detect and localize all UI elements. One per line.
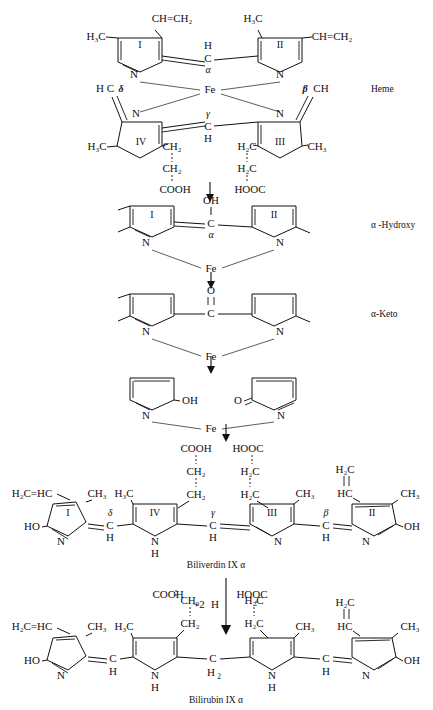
biliverdin-propionate-left-ch2-b: CH₂ — [186, 488, 205, 500]
heme-iron-center: Fe — [205, 83, 216, 95]
heme-delta-label: δ — [118, 83, 123, 94]
heme-structure: I N H₃C CH=CH₂ H C α II N H₃C CH=CH₂ Fe … — [0, 0, 433, 195]
heme-ring-3-chain-h2c-a: H₂C — [237, 140, 256, 152]
bilirubin-caption: Bilirubin IX α — [189, 695, 243, 705]
bilirubin-central-bridge-h: H — [207, 666, 215, 678]
stage-label-heme: Heme — [371, 84, 394, 94]
heme-alpha-bridge-label: α — [205, 64, 211, 75]
biliverdin-propionate-right-h2c-b: H₂C — [240, 488, 259, 500]
biliverdin-gamma-carbon: C — [209, 519, 216, 531]
heme-gamma-hydrogen: H — [204, 132, 212, 144]
keto-ring-1-nitrogen: N — [142, 325, 150, 337]
biliverdin-methyl-2: H₃C — [114, 487, 133, 499]
biliverdin-gamma-label: γ — [211, 507, 216, 518]
stage-label-alpha-keto: α-Keto — [371, 309, 398, 319]
keto-bridge-carbon: C — [207, 307, 214, 319]
biliverdin-ring-1: I N — [47, 502, 86, 547]
biliverdin-caption-wrap: Biliverdin IX α — [0, 556, 433, 572]
biliverdin-right-vinyl-h2c: H₂C — [335, 463, 354, 475]
bilirubin-ring-4-nitrogen: N — [362, 669, 370, 681]
bilirubin-methyl-1: CH₃ — [87, 620, 106, 632]
biliverdin-propionate-left-ch2-a: CH₂ — [186, 465, 205, 477]
biliverdin-ring-1-numeral: I — [66, 507, 69, 518]
bilirubin-ring-1: N — [47, 636, 86, 681]
keto-ring-2: N — [252, 294, 296, 337]
biliverdin-propionate-right-hooc: HOOC — [232, 442, 263, 454]
bilirubin-bridge-3-carbon: C — [322, 652, 329, 664]
heme-ring-1-methyl: H₃C — [86, 30, 105, 42]
hydroxy-ring-1: I N — [130, 206, 174, 248]
heme-ring-4-methyl: H₃C — [87, 140, 106, 152]
open-ring-right-nitrogen: N — [277, 409, 285, 421]
bilirubin-bridge-1-carbon: C — [109, 652, 116, 664]
alpha-keto-structure: O C N N Fe α-Keto — [0, 286, 433, 366]
open-ring-left-nitrogen: N — [142, 409, 150, 421]
heme-beta-group: CH — [313, 82, 328, 94]
heme-beta-label: β — [301, 83, 308, 94]
heme-ring-3: N III — [258, 107, 302, 158]
heme-ring-2: II N — [258, 38, 302, 80]
biliverdin-methyl-1: CH₃ — [87, 487, 106, 499]
biliverdin-ring-3-numeral: III — [267, 507, 277, 518]
heme-alpha-bridge-h: H — [204, 39, 212, 51]
bilirubin-right-vinyl-hc: HC — [337, 620, 352, 632]
biliverdin-left-vinyl: H₂C=HC — [12, 487, 53, 499]
bilirubin-methyl-2: H₃C — [114, 620, 133, 632]
biliverdin-ring-4-numeral: IV — [150, 507, 161, 518]
bilirubin-ring-3: N H — [250, 638, 294, 693]
biliverdin-propionate-right-h2c-a: H₂C — [240, 465, 259, 477]
biliverdin-structure: COOH CH₂ CH₂ HOOC H₂C H₂C H₂C=HC I N HO … — [0, 440, 433, 552]
open-ring-left: N — [130, 378, 174, 421]
heme-ring-2-nitrogen: N — [276, 68, 284, 80]
heme-ring-4-chain-ch2-b: CH₂ — [162, 162, 181, 174]
bilirubin-propionate-left-ch2-a: CH₂ — [180, 594, 199, 606]
biliverdin-gamma-hydrogen: H — [209, 531, 217, 543]
bilirubin-ring-1-nitrogen: N — [57, 669, 65, 681]
biliverdin-beta-label: β — [323, 507, 329, 518]
open-ring-right-oxygen: O — [234, 394, 242, 406]
hydroxy-bridge-carbon: C — [207, 217, 214, 229]
biliverdin-delta-hydrogen: H — [106, 531, 114, 543]
heme-ring-4-chain-ch2-a: CH₂ — [162, 140, 181, 152]
heme-gamma-label: γ — [206, 108, 211, 119]
biliverdin-ring-1-nitrogen: N — [57, 535, 65, 547]
bilirubin-bridge-1-hydrogen: H — [109, 665, 117, 677]
open-ring-left-hydroxy: OH — [182, 394, 198, 406]
hydroxy-bridge-oh: OH — [203, 194, 219, 206]
keto-ring-1: N — [130, 294, 174, 337]
bilirubin-methyl-4: CH₃ — [400, 620, 419, 632]
heme-ring-1-numeral: I — [138, 39, 141, 50]
keto-ring-2-nitrogen: N — [276, 325, 284, 337]
biliverdin-ring-2-nitrogen: N — [362, 535, 370, 547]
heme-ring-4-numeral: IV — [136, 136, 147, 147]
bilirubin-caption-wrap: Bilirubin IX α — [0, 691, 433, 707]
bilirubin-ring-2: N H — [133, 638, 177, 693]
bilirubin-right-hydroxy: OH — [404, 654, 420, 666]
biliverdin-beta-carbon: C — [322, 519, 329, 531]
bilirubin-central-bridge-subscript: 2 — [217, 672, 221, 681]
stage-label-alpha-hydroxy: α -Hydroxy — [371, 220, 416, 230]
heme-ring-4: N IV — [117, 107, 162, 158]
bilirubin-ring-3-nitrogen: N — [268, 669, 276, 681]
heme-ring-1-vinyl: CH=CH₂ — [152, 12, 193, 24]
biliverdin-ring-3: III N — [250, 504, 294, 547]
heme-gamma-carbon: C — [204, 120, 211, 132]
alpha-hydroxy-structure: I N OH C α II N Fe α -Hydroxy — [0, 196, 433, 282]
bilirubin-propionate-left-cooh: COOH — [152, 588, 183, 600]
heme-ring-2-vinyl: CH=CH₂ — [312, 30, 353, 42]
bilirubin-left-hydroxy: HO — [24, 654, 40, 666]
heme-alpha-bridge-carbon: C — [204, 52, 211, 64]
biliverdin-ring-2: II N — [352, 504, 396, 547]
biliverdin-propionate-left-cooh: COOH — [180, 442, 211, 454]
heme-ring-3-nitrogen: N — [276, 107, 284, 119]
biliverdin-caption: Biliverdin IX α — [187, 560, 245, 570]
bilirubin-propionate-right-h2c-b: H₂C — [244, 617, 263, 629]
heme-ring-3-chain-h2c-b: H₂C — [237, 162, 256, 174]
bilirubin-structure: COOH CH₂ CH₂ HOOC H₂C H₂C H₂C=HC N HO CH… — [0, 590, 433, 695]
bilirubin-ring-4: N — [352, 638, 396, 681]
hydroxy-bridge-alpha: α — [208, 229, 214, 240]
biliverdin-ring-4: IV N H — [133, 504, 177, 559]
heme-ring-2-methyl: H₃C — [243, 12, 262, 24]
open-ring-right: N — [252, 378, 296, 421]
biliverdin-right-vinyl-hc: HC — [337, 487, 352, 499]
